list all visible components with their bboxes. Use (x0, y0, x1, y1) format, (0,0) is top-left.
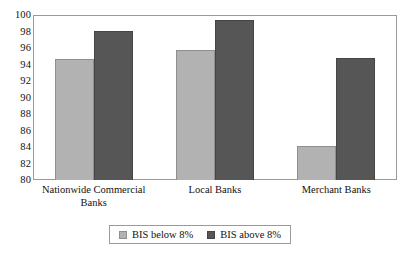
y-axis-tick-label: 90 (2, 93, 31, 103)
y-axis-tick-label: 96 (2, 43, 31, 53)
x-axis-category-label-line: Nationwide Commercial (33, 183, 154, 196)
y-axis-tick-label: 86 (2, 126, 31, 136)
legend-swatch-icon (119, 231, 127, 239)
y-axis: 10098969492908886848280 (0, 0, 31, 254)
bar-bis-below-8 (297, 146, 336, 180)
x-axis-category-label: Nationwide CommercialBanks (33, 183, 154, 209)
legend-entry-bis-above-8: BIS above 8% (207, 229, 281, 240)
x-axis-category-label-line: Banks (33, 196, 154, 209)
y-axis-tick-label: 82 (2, 159, 31, 169)
x-axis-category-label: Merchant Banks (276, 183, 397, 196)
bar-bis-below-8 (176, 50, 215, 180)
y-axis-tick-label: 88 (2, 109, 31, 119)
y-axis-tick-label: 98 (2, 27, 31, 37)
x-axis-category-label: Local Banks (154, 183, 275, 196)
y-axis-tick-label: 92 (2, 76, 31, 86)
legend-entry-bis-below-8: BIS below 8% (119, 229, 193, 240)
x-axis-category-label-line: Local Banks (154, 183, 275, 196)
y-axis-tick-label: 94 (2, 60, 31, 70)
y-axis-tick-label: 100 (2, 10, 31, 20)
bar-bis-above-8 (336, 58, 375, 180)
bar-bis-above-8 (215, 20, 254, 180)
bar-bis-above-8 (94, 31, 133, 180)
bar-bis-below-8 (55, 59, 94, 180)
legend-label: BIS above 8% (220, 229, 281, 240)
x-axis-category-label-line: Merchant Banks (276, 183, 397, 196)
bars-layer (33, 15, 397, 180)
chart-legend: BIS below 8%BIS above 8% (109, 225, 291, 244)
y-axis-tick-label: 84 (2, 142, 31, 152)
legend-label: BIS below 8% (132, 229, 193, 240)
legend-swatch-icon (207, 231, 215, 239)
y-axis-tick-label: 80 (2, 175, 31, 185)
bar-chart-figure: 10098969492908886848280 Nationwide Comme… (0, 0, 408, 254)
x-axis-category-labels: Nationwide CommercialBanksLocal BanksMer… (33, 183, 397, 217)
